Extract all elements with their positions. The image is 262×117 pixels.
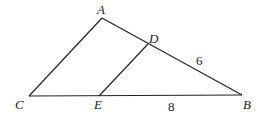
vertex-label-e: E <box>94 98 102 111</box>
vertex-label-a: A <box>97 3 105 16</box>
segment-cb <box>29 95 242 96</box>
vertex-label-c: C <box>15 98 24 111</box>
vertex-label-d: D <box>149 32 158 45</box>
segment-ac <box>29 18 102 96</box>
segment-ab <box>102 18 242 95</box>
length-label-db: 6 <box>196 54 203 67</box>
geometry-diagram: A D C E B 6 8 <box>0 0 262 117</box>
triangle-figure <box>0 0 262 117</box>
segment-de <box>99 44 148 96</box>
length-label-eb: 8 <box>168 100 175 113</box>
vertex-label-b: B <box>243 98 251 111</box>
